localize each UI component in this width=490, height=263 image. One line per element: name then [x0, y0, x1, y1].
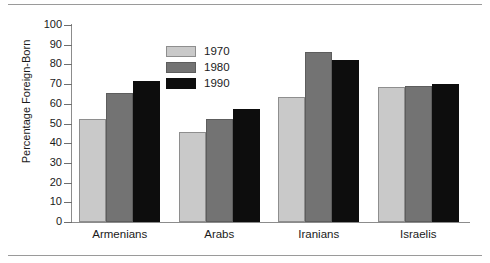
y-tick-mark: [64, 124, 72, 125]
y-tick-label: 0: [22, 216, 62, 227]
y-tick-label-text: 80: [28, 58, 62, 69]
y-tick-label-text: 10: [28, 196, 62, 207]
bar-armenians-1990: [133, 81, 160, 222]
y-tick-mark: [64, 163, 72, 164]
chart-legend: 1970 1980 1990: [166, 44, 262, 92]
y-tick-label-text: 90: [28, 39, 62, 50]
top-divider-rule: [8, 4, 482, 5]
y-tick-mark: [64, 45, 72, 46]
y-tick-label: 10: [22, 196, 62, 207]
y-tick-label: 20: [22, 177, 62, 188]
bar-armenians-1980: [106, 93, 133, 222]
legend-item-1970: 1970: [166, 44, 262, 58]
y-tick-label-text: 40: [28, 137, 62, 148]
bar-israelis-1970: [378, 87, 405, 222]
bottom-divider-rule: [8, 255, 482, 256]
y-tick-label: 50: [22, 118, 62, 129]
y-tick-label: 80: [22, 58, 62, 69]
y-tick-mark: [64, 104, 72, 105]
bar-israelis-1990: [432, 84, 459, 222]
y-tick-mark: [64, 183, 72, 184]
y-tick-mark: [64, 64, 72, 65]
legend-label-1990: 1990: [204, 77, 230, 89]
y-tick-label-text: 60: [28, 98, 62, 109]
y-tick-label: 40: [22, 137, 62, 148]
bar-chart-figure: Percentage Foreign-Born 0102030405060708…: [0, 0, 490, 263]
y-tick-label-text: 50: [28, 118, 62, 129]
legend-swatch-1970: [166, 46, 196, 57]
bar-group-iranians: [278, 25, 359, 222]
x-axis-line: [71, 222, 470, 223]
y-tick-mark: [64, 222, 72, 223]
legend-item-1980: 1980: [166, 60, 262, 74]
y-tick-mark: [64, 143, 72, 144]
legend-label-1980: 1980: [204, 61, 230, 73]
bar-armenians-1970: [79, 119, 106, 222]
y-tick-mark: [64, 25, 72, 26]
bar-arabs-1970: [179, 132, 206, 222]
y-tick-label: 70: [22, 78, 62, 89]
bar-iranians-1970: [278, 97, 305, 222]
y-tick-label-text: 100: [28, 19, 62, 30]
legend-item-1990: 1990: [166, 76, 262, 90]
y-tick-label: 90: [22, 39, 62, 50]
y-tick-mark: [64, 202, 72, 203]
bar-iranians-1980: [305, 52, 332, 222]
y-tick-label-text: 0: [28, 216, 62, 227]
bar-arabs-1990: [233, 109, 260, 222]
y-tick-label: 100: [22, 19, 62, 30]
plot-area: [72, 25, 470, 222]
legend-label-1970: 1970: [204, 45, 230, 57]
y-tick-label: 60: [22, 98, 62, 109]
y-tick-mark: [64, 84, 72, 85]
legend-swatch-1980: [166, 62, 196, 73]
legend-swatch-1990: [166, 78, 196, 89]
y-tick-label-text: 20: [28, 177, 62, 188]
bar-israelis-1980: [405, 86, 432, 222]
bar-iranians-1990: [332, 60, 359, 222]
y-tick-label-text: 30: [28, 157, 62, 168]
y-tick-label: 30: [22, 157, 62, 168]
bar-arabs-1980: [206, 119, 233, 222]
bar-group-armenians: [79, 25, 160, 222]
y-tick-label-text: 70: [28, 78, 62, 89]
x-axis-label-israelis: Israelis: [348, 228, 488, 241]
bar-group-israelis: [378, 25, 459, 222]
